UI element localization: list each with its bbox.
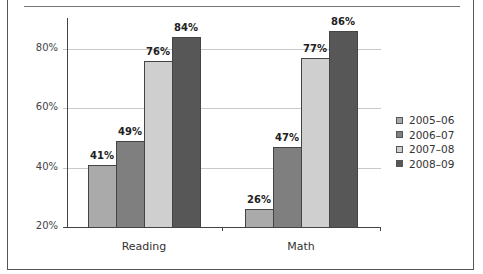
bar-math-1 bbox=[273, 147, 302, 228]
legend-swatch bbox=[396, 117, 403, 124]
bar-math-2 bbox=[301, 58, 330, 228]
y-axis bbox=[67, 18, 68, 228]
x-tick bbox=[380, 227, 381, 231]
legend-swatch bbox=[396, 160, 403, 167]
category-label: Reading bbox=[94, 240, 194, 253]
legend-item: 2008–09 bbox=[396, 157, 454, 172]
bar-reading-1 bbox=[116, 141, 145, 228]
bar-math-3 bbox=[329, 31, 358, 228]
legend-item: 2005–06 bbox=[396, 113, 454, 128]
legend-swatch bbox=[396, 131, 403, 138]
title-underline bbox=[24, 6, 460, 7]
legend-item: 2007–08 bbox=[396, 142, 454, 157]
y-tick-label: 80% bbox=[22, 42, 58, 53]
bar-value-label: 84% bbox=[166, 22, 206, 33]
bar-math-0 bbox=[245, 209, 274, 228]
bar-reading-0 bbox=[88, 165, 117, 228]
legend: 2005–062006–072007–082008–09 bbox=[396, 113, 454, 171]
y-tick-label: 60% bbox=[22, 101, 58, 112]
legend-label: 2007–08 bbox=[409, 143, 454, 155]
bar-reading-2 bbox=[144, 61, 173, 228]
legend-swatch bbox=[396, 146, 403, 153]
x-tick bbox=[222, 227, 223, 231]
legend-item: 2006–07 bbox=[396, 128, 454, 143]
y-tick-label: 20% bbox=[22, 220, 58, 231]
bar-value-label: 86% bbox=[323, 16, 363, 27]
legend-label: 2006–07 bbox=[409, 129, 454, 141]
legend-label: 2008–09 bbox=[409, 158, 454, 170]
y-tick-label: 40% bbox=[22, 161, 58, 172]
legend-label: 2005–06 bbox=[409, 114, 454, 126]
category-label: Math bbox=[251, 240, 351, 253]
bar-reading-3 bbox=[172, 37, 201, 228]
